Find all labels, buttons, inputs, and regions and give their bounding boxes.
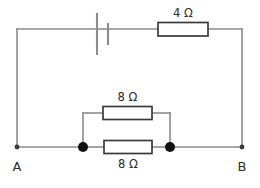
junction-right-node (165, 142, 175, 152)
resistor-4-ohm: 4 Ω (158, 6, 208, 36)
terminal-b-label: B (238, 159, 247, 174)
resistor-8-ohm-upper: 8 Ω (103, 90, 152, 120)
resistor-4-ohm-body (158, 23, 208, 37)
battery-symbol (97, 13, 108, 55)
resistor-8-ohm-lower-body (104, 141, 152, 154)
resistor-8-ohm-lower: 8 Ω (104, 141, 152, 172)
circuit-diagram: 4 Ω 8 Ω 8 Ω A B (0, 0, 260, 188)
terminal-b: B (238, 145, 247, 174)
junction-left-node (78, 142, 88, 152)
resistor-4-ohm-label: 4 Ω (173, 6, 193, 20)
resistor-8-ohm-upper-body (103, 107, 152, 120)
resistor-8-ohm-upper-label: 8 Ω (118, 90, 138, 104)
terminal-a-dot (15, 145, 20, 150)
terminal-b-dot (240, 145, 245, 150)
terminal-a-label: A (13, 159, 22, 174)
terminal-a: A (13, 145, 22, 174)
circuit-schematic-canvas: 4 Ω 8 Ω 8 Ω A B (0, 0, 260, 188)
resistor-8-ohm-lower-label: 8 Ω (118, 157, 138, 171)
